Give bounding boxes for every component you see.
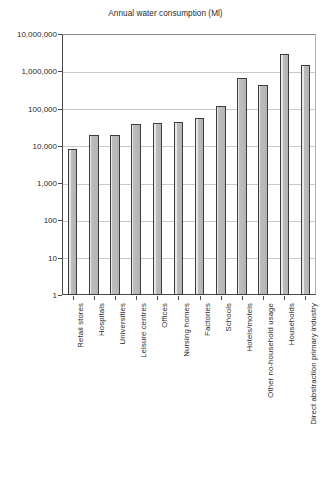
chart-container: Annual water consumption (Ml) 10,000,000… bbox=[0, 0, 331, 478]
x-tick-label: Schools bbox=[224, 303, 233, 331]
x-axis-labels: Retail storesHospitalsUniversitiesLeisur… bbox=[0, 0, 331, 478]
x-tick-label: Leisure centres bbox=[139, 303, 148, 358]
x-tick-label: Offices bbox=[160, 303, 169, 328]
x-tick-label: Nursing homes bbox=[182, 303, 191, 357]
x-tick-label: Hotels/motels bbox=[245, 303, 254, 352]
x-tick-label: Factories bbox=[203, 303, 212, 336]
x-tick-label: Households bbox=[287, 303, 296, 345]
x-tick-label: Universities bbox=[118, 303, 127, 345]
x-tick-label: Direct abstraction primary industry bbox=[309, 303, 318, 425]
x-tick-label: Hospitals bbox=[97, 303, 106, 336]
x-tick-label: Retail stores bbox=[76, 303, 85, 348]
x-tick-label: Other no-household usage bbox=[266, 303, 275, 398]
